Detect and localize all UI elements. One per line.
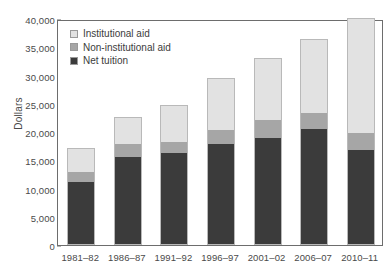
bar-segment[interactable] [160,105,188,142]
bar-stack[interactable] [67,148,95,245]
bar-stack[interactable] [347,18,375,245]
bar-segment[interactable] [300,113,328,129]
bar-stack[interactable] [254,58,282,245]
bar-segment[interactable] [207,130,235,144]
bar-stack[interactable] [160,105,188,245]
y-axis-tick-label: 30,000 [0,71,62,82]
legend-swatch-icon [70,43,78,51]
bar-segment[interactable] [160,153,188,245]
bar-segment[interactable] [160,142,188,153]
y-axis-tick-label: 5,000 [0,212,62,223]
y-axis-tick-label: 0 [0,241,62,252]
y-axis-tick-label: 10,000 [0,184,62,195]
y-axis-tick-label: 40,000 [0,15,62,26]
y-axis-tick-label: 25,000 [0,99,62,110]
bar-segment[interactable] [114,144,142,157]
y-axis-title: Dollars [13,74,24,154]
bar-segment[interactable] [254,138,282,245]
y-axis-tick-label: 35,000 [0,43,62,54]
bar-segment[interactable] [254,120,282,138]
legend-item[interactable]: Non-institutional aid [70,42,171,54]
legend-item[interactable]: Net tuition [70,55,171,67]
legend-item-label: Net tuition [83,55,128,67]
bar-segment[interactable] [114,157,142,245]
legend-item[interactable]: Institutional aid [70,28,171,40]
legend-swatch-icon [70,30,78,38]
bar-segment[interactable] [300,39,328,113]
bar-segment[interactable] [347,150,375,245]
bar-stack[interactable] [114,117,142,245]
bar-segment[interactable] [207,144,235,245]
legend-swatch-icon [70,57,78,65]
y-axis-tick-label: 20,000 [0,128,62,139]
y-axis-tick-label: 15,000 [0,156,62,167]
bar-segment[interactable] [67,172,95,183]
bar-segment[interactable] [300,129,328,245]
bar-segment[interactable] [67,148,95,171]
chart-legend: Institutional aidNon-institutional aidNe… [70,28,171,67]
bar-segment[interactable] [347,133,375,150]
bar-segment[interactable] [114,117,142,144]
bar-segment[interactable] [347,18,375,133]
legend-item-label: Institutional aid [83,28,150,40]
chart-figure: Dollars 05,00010,00015,00020,00025,00030… [0,0,392,275]
x-axis-tick-label: 2010–11 [330,252,390,263]
legend-item-label: Non-institutional aid [83,42,171,54]
bar-stack[interactable] [207,78,235,245]
bar-segment[interactable] [207,78,235,129]
plot-area: Institutional aidNon-institutional aidNe… [57,20,383,246]
bar-segment[interactable] [254,58,282,120]
bar-segment[interactable] [67,182,95,245]
bar-stack[interactable] [300,39,328,245]
